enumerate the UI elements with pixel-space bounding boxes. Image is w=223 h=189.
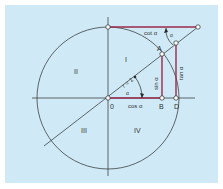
radius-label: r = 1 — [121, 76, 135, 89]
cot-label: cot α — [144, 30, 158, 36]
unit-circle-diagram: I II III IV 0 A B D cos α sin α tan α co… — [0, 0, 223, 189]
alpha-top-label: α — [170, 32, 173, 38]
quadrant-i-label: I — [125, 56, 127, 63]
point-origin — [106, 96, 110, 100]
point-a-label: A — [157, 45, 162, 52]
arrowhead-icon — [164, 28, 168, 33]
point-b-label: B — [159, 103, 164, 110]
point-b — [160, 96, 164, 100]
point-top — [106, 25, 110, 29]
point-d-label: D — [174, 103, 179, 110]
quadrant-iii-label: III — [81, 127, 87, 134]
arc-dot-icon — [134, 76, 137, 79]
alpha-center-label: α — [126, 90, 129, 96]
cos-label: cos α — [128, 103, 143, 109]
point-d — [174, 96, 178, 100]
origin-label: 0 — [110, 103, 114, 110]
sin-label: sin α — [153, 77, 159, 90]
point-cot — [196, 25, 200, 29]
quadrant-iv-label: IV — [134, 127, 141, 134]
point-tan — [174, 41, 178, 45]
arrowhead-icon — [140, 93, 144, 98]
tan-label: tan α — [178, 66, 184, 80]
quadrant-ii-label: II — [74, 68, 78, 75]
point-a — [160, 52, 164, 56]
